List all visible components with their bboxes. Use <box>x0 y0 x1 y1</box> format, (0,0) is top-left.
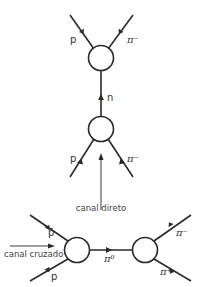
label-top-pi-minus: π⁻ <box>126 34 139 45</box>
vertex-right <box>133 238 158 263</box>
label-pi-minus-crossed: π⁻ <box>175 227 188 238</box>
label-pi0: π⁰ <box>103 253 115 264</box>
arrow-icon-direct-channel <box>99 153 104 160</box>
label-top-p: p <box>70 34 76 45</box>
label-bottom-pi-minus: π⁻ <box>126 153 139 164</box>
vertex-top <box>89 46 114 71</box>
feynman-diagram: p π⁻ n p π⁻ canal direto p̄ p canal cruz… <box>0 0 201 287</box>
vertex-left <box>65 238 90 263</box>
label-p-crossed: p <box>51 271 57 282</box>
vertex-middle <box>89 117 114 142</box>
label-pi-plus: π⁺ <box>159 266 172 277</box>
arrow-icon-pi-minus-crossed <box>166 221 173 228</box>
arrow-icon-crossed-channel <box>48 244 55 249</box>
caption-direct-channel: canal direto <box>76 203 126 213</box>
arrow-icon-n <box>98 94 104 100</box>
label-n: n <box>107 92 113 103</box>
label-pbar: p̄ <box>48 227 54 238</box>
label-bottom-p: p <box>70 153 76 164</box>
caption-crossed-channel: canal cruzado <box>4 249 63 259</box>
